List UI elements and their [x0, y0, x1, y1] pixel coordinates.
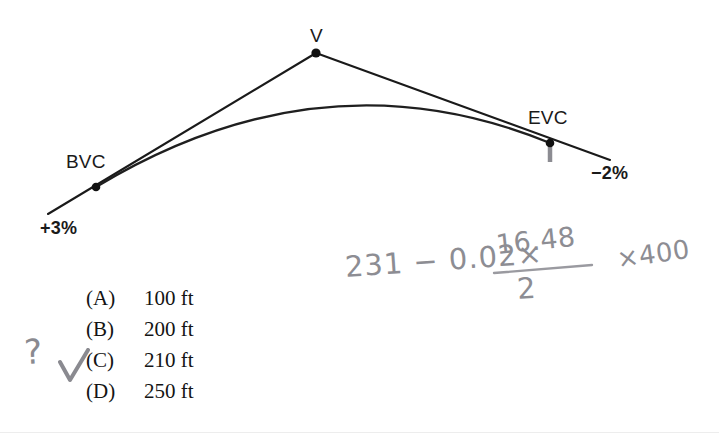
incoming-grade-label: +3%	[40, 219, 77, 237]
worksheet-page: BVC V EVC +3% −2% (A) 100 ft (B) 200 ft …	[0, 0, 719, 433]
outgoing-grade-label: −2%	[591, 164, 628, 182]
answer-choice-c[interactable]: (C) 210 ft	[86, 348, 194, 379]
choice-tag: (D)	[86, 379, 132, 404]
evc-label: EVC	[528, 108, 568, 127]
choice-tag: (A)	[86, 286, 132, 311]
vertex-point-marker	[311, 48, 320, 57]
choice-text: 100 ft	[132, 286, 194, 311]
answer-choice-list: (A) 100 ft (B) 200 ft (C) 210 ft (D) 250…	[86, 286, 194, 410]
grade-line-incoming	[48, 53, 316, 214]
answer-choice-d[interactable]: (D) 250 ft	[86, 379, 194, 410]
bvc-label: BVC	[66, 152, 106, 171]
choice-text: 210 ft	[132, 348, 194, 373]
answer-choice-a[interactable]: (A) 100 ft	[86, 286, 194, 317]
choice-tag: (B)	[86, 317, 132, 342]
vertex-label: V	[310, 26, 323, 45]
choice-text: 200 ft	[132, 317, 194, 342]
choice-tag: (C)	[86, 348, 132, 373]
parabolic-curve	[96, 105, 550, 187]
choice-text: 250 ft	[132, 379, 194, 404]
answer-choice-b[interactable]: (B) 200 ft	[86, 317, 194, 348]
evc-point-marker	[546, 139, 555, 148]
bvc-point-marker	[92, 183, 101, 192]
